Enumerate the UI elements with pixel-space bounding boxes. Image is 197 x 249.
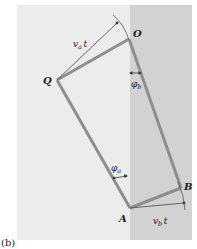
diagram-canvas: Q O A B vat vbt φa φb <box>0 0 197 249</box>
label-Q: Q <box>43 75 52 86</box>
label-B: B <box>183 181 192 192</box>
figure-caption: (b) <box>1 237 15 248</box>
phi-a-dot <box>113 177 116 180</box>
refraction-diagram: Q O A B vat vbt φa φb (b) <box>0 0 197 249</box>
label-A: A <box>118 213 127 224</box>
va-t-endpoint-dot <box>116 22 119 25</box>
label-O: O <box>133 28 142 39</box>
